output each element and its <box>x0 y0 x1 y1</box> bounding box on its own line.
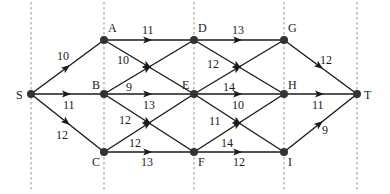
node-label-A: A <box>108 21 117 35</box>
edge-weight-I-T: 9 <box>322 123 328 137</box>
edge-weight-F-H: 14 <box>221 136 233 150</box>
node-label-T: T <box>364 88 372 102</box>
edge-weight-G-T: 12 <box>320 53 332 67</box>
node-label-B: B <box>92 78 100 92</box>
node-B <box>100 90 108 98</box>
node-label-S: S <box>16 88 23 102</box>
edge-weight-A-E: 10 <box>117 53 129 67</box>
node-D <box>190 36 198 44</box>
node-T <box>353 90 361 98</box>
node-S <box>27 90 35 98</box>
node-label-E: E <box>182 78 189 92</box>
node-A <box>100 36 108 44</box>
edge-weight-D-H: 12 <box>207 57 219 71</box>
edge-weight-E-H: 10 <box>232 98 244 112</box>
edge-weight-S-C: 12 <box>56 128 68 142</box>
edge-weight-D-G: 13 <box>232 23 244 37</box>
node-E <box>190 90 198 98</box>
node-C <box>100 148 108 156</box>
node-I <box>280 148 288 156</box>
edge-weight-H-T: 11 <box>312 98 324 112</box>
node-label-G: G <box>288 21 297 35</box>
edge-weight-B-D: 9 <box>126 80 132 94</box>
node-F <box>190 148 198 156</box>
edge-weight-S-A: 10 <box>57 49 69 63</box>
edge-weight-C-F: 13 <box>141 155 153 169</box>
node-label-F: F <box>198 155 205 169</box>
network-diagram: 10111211109131212131312141011141212119SA… <box>0 0 390 194</box>
edge-weight-C-E: 12 <box>129 136 141 150</box>
node-label-C: C <box>92 155 100 169</box>
edge-weight-B-F: 12 <box>119 113 131 127</box>
edge-weight-E-I: 11 <box>209 114 221 128</box>
edge-weight-E-G: 14 <box>223 80 235 94</box>
node-label-H: H <box>288 78 297 92</box>
edge-weight-A-D: 11 <box>142 23 154 37</box>
edge-weight-B-E: 13 <box>143 98 155 112</box>
edge-weight-F-I: 12 <box>233 155 245 169</box>
node-G <box>280 36 288 44</box>
node-label-D: D <box>198 21 207 35</box>
node-H <box>280 90 288 98</box>
arrow-icon <box>61 62 72 73</box>
node-label-I: I <box>288 155 292 169</box>
edge-weight-S-B: 11 <box>63 98 75 112</box>
